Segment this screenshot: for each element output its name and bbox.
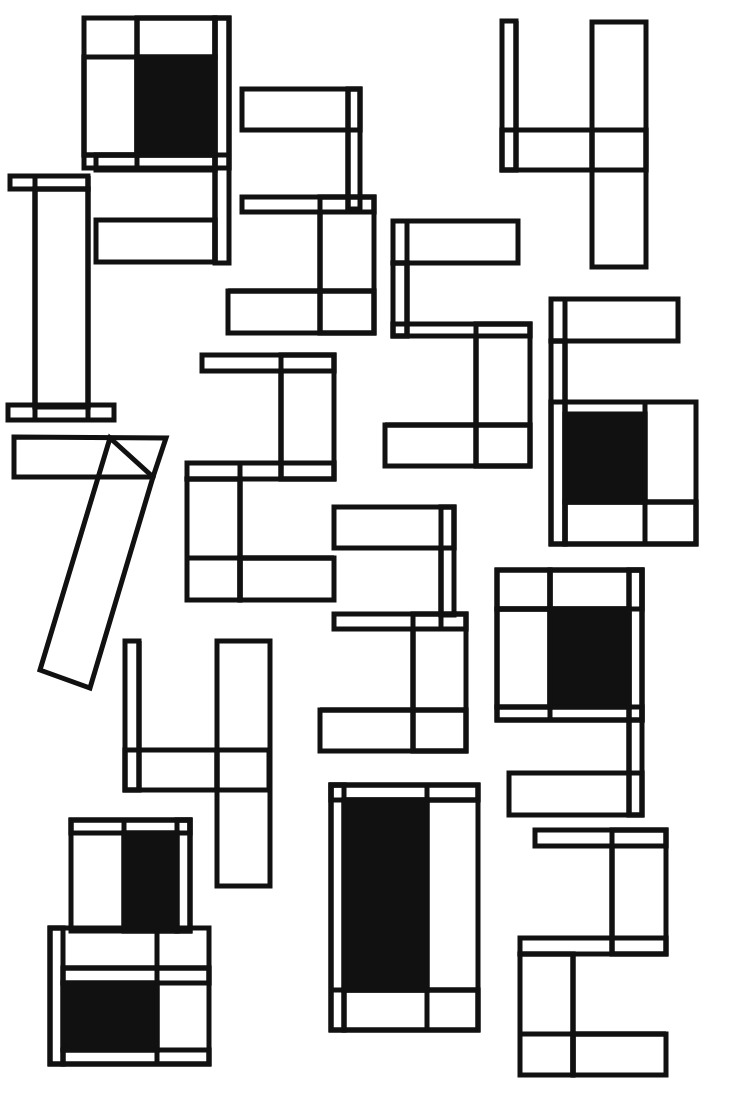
- digit-6-filled-block: [565, 414, 645, 502]
- digit-8-block: [71, 820, 190, 833]
- digit-2-block: [240, 558, 334, 600]
- digit-9-block: [497, 609, 550, 707]
- digit-3-block: [334, 507, 454, 548]
- digit-2-block: [520, 954, 573, 1075]
- digit-4-block: [502, 130, 646, 170]
- digit-2-block: [573, 1034, 666, 1075]
- digit-3-block: [320, 710, 466, 751]
- digit-8-block: [177, 820, 190, 931]
- digit-3-block: [228, 291, 374, 333]
- digit-6-block: [565, 502, 696, 544]
- digit-2-block: [281, 355, 334, 479]
- digit-9-block: [137, 18, 215, 57]
- digit-9-block: [497, 707, 642, 720]
- digit-4-block: [125, 750, 269, 790]
- digit-0-block: [344, 990, 478, 1030]
- digit-9-filled-block: [137, 57, 215, 155]
- digit-5-block: [393, 221, 518, 263]
- digit-3-block: [320, 197, 374, 333]
- digit-1-block: [8, 405, 114, 420]
- digit-5-block: [476, 324, 530, 466]
- digit-9-block: [84, 57, 137, 155]
- digit-3-block: [413, 614, 466, 751]
- digit-9-block: [96, 220, 215, 262]
- digit-8-block: [50, 928, 63, 1064]
- digit-1-block: [35, 189, 88, 407]
- digit-6-block: [551, 299, 678, 341]
- digit-5-block: [385, 425, 530, 466]
- digit-2-block: [612, 830, 666, 954]
- digit-4-block: [592, 22, 646, 267]
- digit-9-filled-block: [550, 609, 629, 707]
- digit-0-filled-block: [344, 800, 427, 990]
- digit-8-block: [63, 1050, 209, 1064]
- digit-9-block: [497, 570, 550, 609]
- digit-4-block: [217, 641, 270, 886]
- digit-8-filled-block: [124, 833, 177, 931]
- digit-9-block: [509, 773, 642, 815]
- digit-8-filled-block: [63, 983, 157, 1050]
- filled-blocks: [63, 57, 645, 1050]
- digit-3-block: [242, 89, 360, 130]
- digit-2-block: [187, 479, 240, 600]
- digit-artwork-canvas: [0, 0, 731, 1115]
